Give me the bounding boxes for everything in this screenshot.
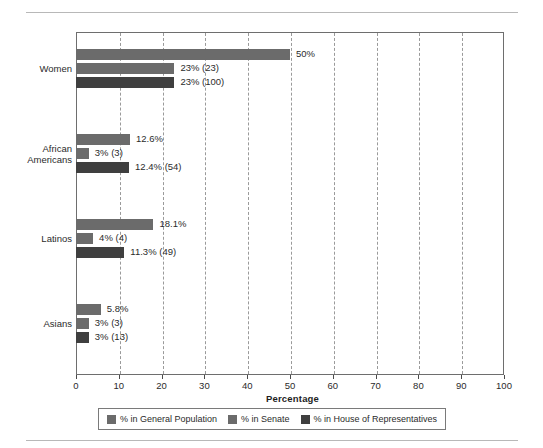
bar-value-label: 12.4% (54): [135, 160, 181, 173]
bar-value-label: 23% (100): [180, 75, 224, 88]
x-tick-mark: [333, 375, 334, 379]
legend-label: % in General Population: [120, 414, 217, 424]
category-label-line: African: [4, 143, 72, 154]
category-label-1: AfricanAmericans: [4, 143, 72, 165]
legend-item-2: % in House of Representatives: [301, 414, 438, 424]
bar-value-label: 18.1%: [159, 217, 186, 230]
category-label-0: Women: [4, 63, 72, 74]
x-tick-mark: [376, 375, 377, 379]
bar: [76, 162, 129, 173]
x-tick-label: 10: [114, 380, 125, 391]
bar-group-1-series-0: 12.6%: [76, 134, 504, 145]
bar: [76, 247, 124, 258]
bar-group-3-series-2: 3% (13): [76, 332, 504, 343]
legend-item-0: % in General Population: [107, 414, 217, 424]
bar-group-3-series-1: 3% (3): [76, 318, 504, 329]
legend-label: % in Senate: [241, 414, 290, 424]
bar: [76, 233, 93, 244]
category-label-line: Women: [4, 63, 72, 74]
bar: [76, 63, 174, 74]
bar: [76, 148, 89, 159]
x-tick-label: 60: [328, 380, 339, 391]
bar-value-label: 3% (3): [95, 316, 123, 329]
x-tick-label: 30: [199, 380, 210, 391]
x-tick-label: 40: [242, 380, 253, 391]
bar: [76, 77, 174, 88]
bar-value-label: 3% (3): [95, 146, 123, 159]
x-axis-title-text: Percentage: [266, 393, 319, 404]
x-tick-label: 20: [156, 380, 167, 391]
legend-item-1: % in Senate: [228, 414, 290, 424]
x-tick-label: 100: [496, 380, 512, 391]
x-tick-label: 90: [456, 380, 467, 391]
x-tick-mark: [247, 375, 248, 379]
bar-chart-figure: WomenAfricanAmericansLatinosAsians 50%23…: [0, 0, 543, 448]
x-tick-mark: [76, 375, 77, 379]
bar-value-label: 5.8%: [107, 302, 129, 315]
category-label-3: Asians: [4, 318, 72, 329]
bar-value-label: 50%: [296, 47, 315, 60]
bar: [76, 134, 130, 145]
bar-value-label: 11.3% (49): [130, 245, 176, 258]
bar-value-label: 12.6%: [136, 132, 163, 145]
x-tick-label: 0: [73, 380, 78, 391]
bar-value-label: 3% (13): [95, 330, 128, 343]
bar-group-1-series-1: 3% (3): [76, 148, 504, 159]
bar-group-0-series-2: 23% (100): [76, 77, 504, 88]
category-label-line: Americans: [4, 154, 72, 165]
x-tick-mark: [504, 375, 505, 379]
legend-swatch-icon: [107, 415, 116, 424]
bar: [76, 318, 89, 329]
bar-group-2-series-2: 11.3% (49): [76, 247, 504, 258]
bar-value-label: 4% (4): [99, 231, 127, 244]
x-tick-label: 80: [413, 380, 424, 391]
legend-swatch-icon: [228, 415, 237, 424]
bar-value-label: 23% (23): [180, 61, 219, 74]
bar-group-2-series-1: 4% (4): [76, 233, 504, 244]
bar-group-3-series-0: 5.8%: [76, 304, 504, 315]
category-label-line: Latinos: [4, 233, 72, 244]
category-axis-labels: WomenAfricanAmericansLatinosAsians: [0, 32, 72, 375]
chart-legend: % in General Population% in Senate% in H…: [98, 408, 446, 430]
legend-label: % in House of Representatives: [314, 414, 438, 424]
bar-group-1-series-2: 12.4% (54): [76, 162, 504, 173]
bar: [76, 332, 89, 343]
bar-group-0-series-0: 50%: [76, 49, 504, 60]
x-tick-label: 70: [370, 380, 381, 391]
x-tick-mark: [461, 375, 462, 379]
bar: [76, 49, 290, 60]
x-tick-mark: [204, 375, 205, 379]
bars-layer: 50%23% (23)23% (100)12.6%3% (3)12.4% (54…: [76, 32, 504, 375]
x-tick-label: 50: [285, 380, 296, 391]
x-tick-mark: [418, 375, 419, 379]
legend-swatch-icon: [301, 415, 310, 424]
x-tick-mark: [119, 375, 120, 379]
bar-group-2-series-0: 18.1%: [76, 219, 504, 230]
x-tick-mark: [290, 375, 291, 379]
x-tick-mark: [162, 375, 163, 379]
bar-group-0-series-1: 23% (23): [76, 63, 504, 74]
category-label-2: Latinos: [4, 233, 72, 244]
x-axis-title: Percentage: [0, 393, 543, 404]
bar: [76, 304, 101, 315]
x-axis: 0102030405060708090100: [76, 375, 504, 395]
bar: [76, 219, 153, 230]
category-label-line: Asians: [4, 318, 72, 329]
